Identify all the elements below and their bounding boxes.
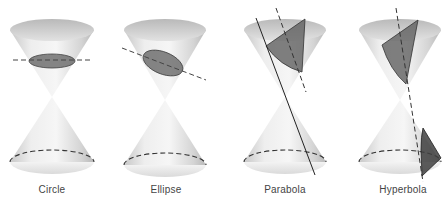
label-ellipse: Ellipse — [116, 184, 216, 195]
ellipse-panel — [122, 19, 206, 177]
conic-sections-figure — [0, 0, 445, 203]
parabola-panel — [244, 8, 326, 175]
circle-panel — [10, 19, 94, 174]
lower-base — [124, 165, 206, 177]
label-circle: Circle — [2, 184, 102, 195]
label-parabola: Parabola — [235, 184, 335, 195]
lower-base — [10, 162, 94, 174]
lower-nappe — [10, 97, 94, 162]
label-hyperbola: Hyperbola — [353, 184, 445, 195]
lower-nappe — [244, 97, 326, 162]
hyperbola-panel — [359, 8, 441, 182]
upper-rim — [10, 19, 94, 41]
upper-rim — [124, 19, 206, 41]
lower-nappe — [124, 100, 206, 165]
circle-section — [29, 54, 75, 68]
